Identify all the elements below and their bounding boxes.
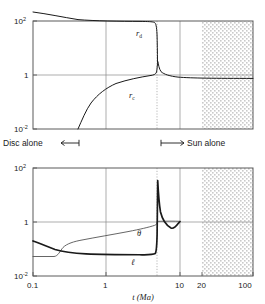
xtick-label-4: 100: [238, 281, 252, 290]
xtick-label-3: 20: [197, 281, 206, 290]
xtick-label-0: 0.1: [27, 281, 39, 290]
sun-alone-label: Sun alone: [187, 138, 226, 148]
x-axis-title: t (Ma): [132, 292, 154, 302]
figure-container: 102 1 10-2 rd rc Disc alone Sun alone: [0, 0, 265, 304]
xtick-label-1: 1: [103, 281, 108, 290]
theta-label: θ: [137, 228, 141, 238]
ell-label: ℓ: [131, 257, 135, 267]
disc-alone-label: Disc alone: [3, 138, 43, 148]
ytick-label-bottom-1: 1: [24, 218, 29, 227]
ytick-label-top-1: 1: [24, 71, 29, 80]
xtick-label-2: 10: [175, 281, 184, 290]
figure-svg: 102 1 10-2 rd rc Disc alone Sun alone: [0, 0, 265, 304]
